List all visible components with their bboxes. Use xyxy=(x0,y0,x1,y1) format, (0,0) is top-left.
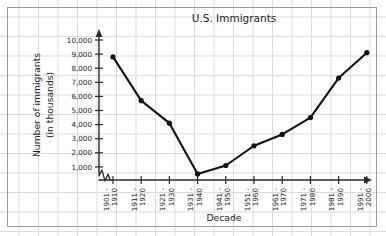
chart-figure: U.S. Immigrants Number of immigrants (in… xyxy=(0,0,386,236)
data-point-marker xyxy=(110,54,115,59)
y-tick-label: 9,000 xyxy=(71,50,92,59)
data-point-marker xyxy=(364,50,369,55)
y-tick-label: 6,000 xyxy=(71,92,92,101)
data-line xyxy=(113,53,367,174)
chart-title: U.S. Immigrants xyxy=(192,12,277,24)
x-tick-label: 2000 xyxy=(364,188,373,207)
y-tick-label: 1,000 xyxy=(71,163,92,172)
data-point-marker xyxy=(195,171,200,176)
data-points xyxy=(110,50,369,176)
y-tick-label: 2,000 xyxy=(71,148,92,157)
y-axis-title: Number of immigrants (in thousands) xyxy=(31,53,55,157)
x-tick-label: 1910 xyxy=(110,188,119,207)
data-point-marker xyxy=(139,98,144,103)
x-axis-title: Decade xyxy=(207,212,242,223)
data-point-marker xyxy=(251,143,256,148)
y-tick-label: 5,000 xyxy=(71,106,92,115)
y-tick-label: 10,000 xyxy=(67,36,93,45)
data-point-marker xyxy=(167,121,172,126)
svg-text:(in thousands): (in thousands) xyxy=(44,72,55,138)
y-tick-label: 3,000 xyxy=(71,134,92,143)
x-tick-label: 1960 xyxy=(251,188,260,207)
y-tick-label: 8,000 xyxy=(71,64,92,73)
y-tick-label: 4,000 xyxy=(71,120,92,129)
data-point-marker xyxy=(280,132,285,137)
x-tick-label: 1950 xyxy=(223,188,232,207)
x-tick-label: 1930 xyxy=(167,188,176,207)
data-point-marker xyxy=(336,75,341,80)
y-axis-ticks: 1,0002,0003,0004,0005,0006,0007,0008,000… xyxy=(67,36,103,172)
svg-text:Number of immigrants: Number of immigrants xyxy=(31,53,42,157)
data-point-marker xyxy=(308,115,313,120)
x-tick-label: 1940 xyxy=(195,188,204,207)
y-tick-label: 7,000 xyxy=(71,78,92,87)
data-point-marker xyxy=(223,163,228,168)
x-tick-label: 1990 xyxy=(336,188,345,207)
x-axis-ticks: 1901 -19101911 -19201921 -19301931 -1940… xyxy=(102,176,373,211)
x-tick-label: 1980 xyxy=(308,188,317,207)
x-tick-label: 1970 xyxy=(279,188,288,207)
x-tick-label: 1920 xyxy=(138,188,147,207)
line-chart: U.S. Immigrants Number of immigrants (in… xyxy=(0,0,386,236)
